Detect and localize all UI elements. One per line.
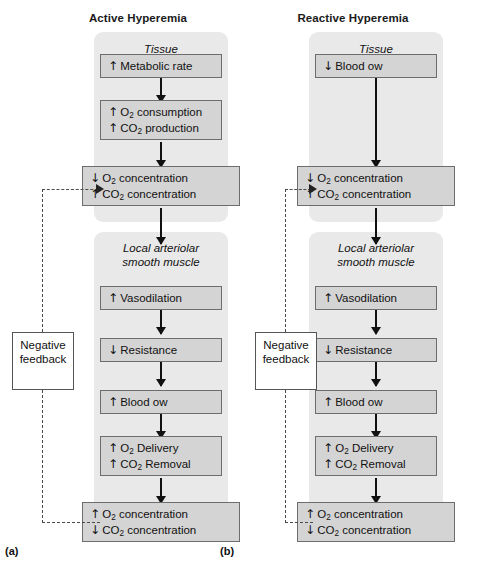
box-a5: ↓ Resistance [100, 338, 222, 362]
negative-feedback-a-line1: Negative [20, 339, 65, 351]
up-arrow-icon: ↑ [323, 440, 332, 456]
arrow-b4-b5 [375, 308, 377, 334]
box-a6-line1: ↑ Blood ow [108, 394, 214, 410]
arrow-b1-b3 [375, 76, 377, 167]
box-a3-line2: ↑ CO2 concentration [90, 186, 232, 202]
box-a5-line1: ↓ Resistance [108, 342, 214, 358]
negative-feedback-b-line1: Negative [263, 339, 308, 351]
feedback-a-top-segment [42, 189, 98, 190]
box-b3: ↓ O2 concentration ↑ CO2 concentration [297, 166, 455, 206]
box-b7-line2: ↑ CO2 Removal [323, 456, 429, 472]
box-b6-line1: ↑ Blood ow [323, 394, 429, 410]
box-a8: ↑ O2 concentration ↓ CO2 concentration [82, 502, 240, 542]
box-b4-line1-text: Vasodilation [335, 292, 397, 304]
down-arrow-icon: ↓ [323, 58, 332, 74]
arrow-a2-a3 [160, 142, 162, 167]
box-a1-line1: ↑ Metabolic rate [108, 58, 214, 74]
down-arrow-icon: ↓ [305, 522, 314, 538]
box-a3: ↓ O2 concentration ↑ CO2 concentration [82, 166, 240, 206]
negative-feedback-box-a: Negative feedback [12, 332, 74, 390]
up-arrow-icon: ↑ [90, 506, 99, 522]
up-arrow-icon: ↑ [108, 394, 117, 410]
up-arrow-icon: ↑ [108, 104, 117, 120]
box-a2: ↑ O2 consumption ↑ CO2 production [100, 100, 222, 140]
up-arrow-icon: ↑ [323, 394, 332, 410]
box-a1-line1-text: Metabolic rate [120, 60, 192, 72]
box-a8-line2: ↓ CO2 concentration [90, 522, 232, 538]
box-a6-line1-text: Blood ow [120, 396, 167, 408]
feedback-b-bottom-segment [285, 522, 313, 523]
arrow-b3-b4 [375, 208, 377, 244]
feedback-b-top-segment [285, 189, 311, 190]
feedback-b-left-upper [285, 189, 286, 332]
box-a4-line1: ↑ Vasodilation [108, 290, 214, 306]
box-b5-line1-text: Resistance [335, 344, 392, 356]
arrow-a3-a4 [160, 208, 162, 244]
arrow-b7-b8 [375, 478, 377, 503]
feedback-a-left-upper [42, 189, 43, 332]
box-a5-line1-text: Resistance [120, 344, 177, 356]
box-b8-line2: ↓ CO2 concentration [305, 522, 447, 538]
box-b6-line1-text: Blood ow [335, 396, 382, 408]
down-arrow-icon: ↓ [108, 342, 117, 358]
box-a2-line1: ↑ O2 consumption [108, 104, 214, 120]
panel-b-caption: (b) [220, 545, 234, 557]
down-arrow-icon: ↓ [323, 342, 332, 358]
arrow-a1-a2 [160, 76, 162, 102]
box-b1-line1: ↓ Blood ow [323, 58, 429, 74]
box-a8-line1: ↑ O2 concentration [90, 506, 232, 522]
feedback-a-arrowhead-icon [96, 184, 104, 194]
box-a4-line1-text: Vasodilation [120, 292, 182, 304]
arrow-a4-a5 [160, 308, 162, 334]
box-b4: ↑ Vasodilation [315, 286, 437, 310]
arrow-a5-a6 [160, 360, 162, 386]
box-a4: ↑ Vasodilation [100, 286, 222, 310]
box-b7: ↑ O2 Delivery ↑ CO2 Removal [315, 436, 437, 476]
panel-a-muscle-heading-line2: smooth muscle [122, 256, 199, 268]
panel-a-muscle-heading: Local arteriolar smooth muscle [94, 242, 228, 269]
box-b1: ↓ Blood ow [315, 54, 437, 78]
box-b5-line1: ↓ Resistance [323, 342, 429, 358]
up-arrow-icon: ↑ [108, 290, 117, 306]
up-arrow-icon: ↑ [108, 456, 117, 472]
arrow-a6-a7 [160, 412, 162, 438]
up-arrow-icon: ↑ [323, 456, 332, 472]
arrow-b6-b7 [375, 412, 377, 438]
down-arrow-icon: ↓ [90, 522, 99, 538]
arrow-a7-a8 [160, 478, 162, 503]
up-arrow-icon: ↑ [108, 120, 117, 136]
arrow-b5-b6 [375, 360, 377, 386]
panel-a-caption: (a) [5, 545, 18, 557]
up-arrow-icon: ↑ [108, 440, 117, 456]
negative-feedback-box-b: Negative feedback [255, 332, 317, 390]
box-a2-line2: ↑ CO2 production [108, 120, 214, 136]
box-b6: ↑ Blood ow [315, 390, 437, 414]
box-b1-line1-text: Blood ow [335, 60, 382, 72]
feedback-b-arrowhead-icon [309, 184, 317, 194]
panel-active-hyperemia: Active Hyperemia Tissue Local arteriolar… [38, 0, 238, 577]
panel-a-title: Active Hyperemia [38, 12, 238, 24]
negative-feedback-a-line2: feedback [20, 353, 67, 365]
panel-b-title: Reactive Hyperemia [253, 12, 453, 24]
box-a7: ↑ O2 Delivery ↑ CO2 Removal [100, 436, 222, 476]
box-b7-line1: ↑ O2 Delivery [323, 440, 429, 456]
box-a7-line2: ↑ CO2 Removal [108, 456, 214, 472]
box-b3-line1: ↓ O2 concentration [305, 170, 447, 186]
feedback-a-left-lower [42, 390, 43, 523]
hyperemia-figure: Active Hyperemia Tissue Local arteriolar… [0, 0, 493, 577]
box-a6: ↑ Blood ow [100, 390, 222, 414]
box-b5: ↓ Resistance [315, 338, 437, 362]
negative-feedback-b-line2: feedback [263, 353, 310, 365]
feedback-b-left-lower [285, 390, 286, 523]
box-b8: ↑ O2 concentration ↓ CO2 concentration [297, 502, 455, 542]
box-b4-line1: ↑ Vasodilation [323, 290, 429, 306]
panel-b-muscle-heading: Local arteriolar smooth muscle [309, 242, 443, 269]
box-a1: ↑ Metabolic rate [100, 54, 222, 78]
box-b8-line1: ↑ O2 concentration [305, 506, 447, 522]
box-b3-line2: ↑ CO2 concentration [305, 186, 447, 202]
box-a3-line1: ↓ O2 concentration [90, 170, 232, 186]
feedback-a-bottom-segment [42, 522, 100, 523]
box-a7-line1: ↑ O2 Delivery [108, 440, 214, 456]
up-arrow-icon: ↑ [108, 58, 117, 74]
up-arrow-icon: ↑ [323, 290, 332, 306]
